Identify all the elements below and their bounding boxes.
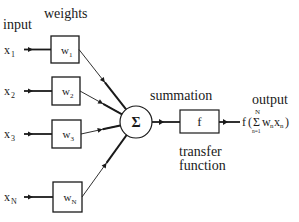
arrow-icon: [223, 119, 228, 125]
transfer-label-line2: function: [179, 158, 226, 173]
input-variable: x3: [4, 127, 15, 143]
arrow-icon: [28, 89, 33, 94]
weight-connection-thick: [107, 135, 127, 163]
arrow-icon: [28, 195, 33, 200]
neuron-diagram: input weights x1w1x2w2x3w3xNwN Σ summati…: [0, 0, 299, 222]
weights-label: weights: [44, 6, 88, 21]
formula-close-paren: ): [285, 115, 289, 129]
formula-upper-limit: N: [255, 108, 260, 116]
input-variable: xN: [4, 190, 17, 206]
arrow-icon: [28, 132, 33, 137]
formula-sigma: Σ: [253, 115, 260, 129]
output-formula: f ( Σ N n=1 w n x n ): [242, 108, 289, 134]
arrow-icon: [102, 163, 107, 169]
formula-lower-limit: n=1: [252, 128, 261, 134]
transfer-symbol: f: [197, 114, 202, 129]
arrow-icon: [28, 47, 33, 52]
weight-connection-thick: [105, 82, 126, 109]
arrow-icon: [97, 128, 102, 133]
arrow-icon: [159, 119, 164, 125]
weight-connection-thick: [103, 104, 122, 114]
output-label: output: [252, 92, 288, 107]
formula-f: f: [242, 115, 246, 129]
formula-input-sub: n: [280, 122, 284, 130]
arrow-icon: [100, 77, 105, 82]
transfer-label-line1: transfer: [179, 144, 222, 159]
input-row: x2w2: [4, 77, 122, 114]
input-variable: x1: [4, 43, 15, 59]
input-label: input: [3, 17, 32, 32]
input-variable: x2: [4, 84, 15, 100]
input-row: x3w3: [4, 120, 120, 148]
formula-open-paren: (: [248, 115, 252, 129]
summation-label: summation: [150, 88, 212, 103]
weight-connection-thick: [103, 125, 121, 129]
sigma-symbol: Σ: [131, 115, 140, 130]
